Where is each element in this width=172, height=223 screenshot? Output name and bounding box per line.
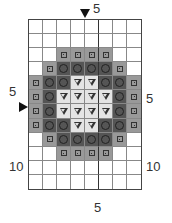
chart-cell <box>127 147 141 161</box>
triangle-down-icon <box>88 122 96 129</box>
chart-grid <box>28 19 142 190</box>
chart-cell <box>85 90 99 104</box>
chart-cell <box>85 34 99 48</box>
chart-cell <box>113 161 127 175</box>
chart-cell <box>57 175 71 189</box>
triangle-down-icon <box>74 122 82 129</box>
chart-cell <box>71 62 85 76</box>
chart-cell <box>71 90 85 104</box>
chart-cell <box>113 76 127 90</box>
bottom-column-label: 5 <box>94 201 101 214</box>
triangle-down-icon <box>74 108 82 115</box>
chart-cell <box>43 104 57 118</box>
chart-cell <box>127 175 141 189</box>
chart-cell <box>57 147 71 161</box>
chart-cell <box>99 20 113 34</box>
chart-cell <box>57 34 71 48</box>
circle-icon <box>101 78 110 87</box>
circle-icon <box>101 64 110 73</box>
square-dot-icon <box>47 66 53 72</box>
chart-cell <box>99 104 113 118</box>
chart-cell <box>71 104 85 118</box>
circle-icon <box>45 78 54 87</box>
chart-cell <box>43 20 57 34</box>
chart-cell <box>29 48 43 62</box>
chart-cell <box>127 119 141 133</box>
chart-cell <box>127 104 141 118</box>
square-dot-icon <box>33 108 39 114</box>
square-dot-icon <box>131 108 137 114</box>
chart-cell <box>99 90 113 104</box>
square-dot-icon <box>117 66 123 72</box>
chart-cell <box>99 119 113 133</box>
circle-icon <box>101 121 110 130</box>
triangle-down-icon <box>88 108 96 115</box>
chart-cell <box>71 34 85 48</box>
chart-cell <box>43 161 57 175</box>
square-dot-icon <box>131 80 137 86</box>
chart-cell <box>57 20 71 34</box>
circle-icon <box>115 78 124 87</box>
chart-cell <box>71 48 85 62</box>
chart-cell <box>57 119 71 133</box>
triangle-down-icon <box>60 108 68 115</box>
chart-cell <box>29 147 43 161</box>
square-dot-icon <box>89 52 95 58</box>
chart-cell <box>57 133 71 147</box>
square-dot-icon <box>131 122 137 128</box>
chart-cell <box>43 48 57 62</box>
square-dot-icon <box>117 136 123 142</box>
chart-cell <box>43 34 57 48</box>
chart-cell <box>85 161 99 175</box>
right-row-label-10: 10 <box>146 160 160 173</box>
circle-icon <box>45 92 54 101</box>
chart-cell <box>57 90 71 104</box>
chart-cell <box>71 147 85 161</box>
chart-cell <box>29 34 43 48</box>
chart-cell <box>71 133 85 147</box>
square-dot-icon <box>61 52 67 58</box>
column-marker-arrow-icon <box>80 9 90 18</box>
chart-cell <box>113 48 127 62</box>
chart-cell <box>29 175 43 189</box>
chart-cell <box>127 62 141 76</box>
chart-cell <box>85 133 99 147</box>
chart-cell <box>71 76 85 90</box>
chart-cell <box>85 48 99 62</box>
circle-icon <box>115 107 124 116</box>
left-row-label-10: 10 <box>9 160 23 173</box>
triangle-down-icon <box>102 108 110 115</box>
chart-cell <box>57 62 71 76</box>
chart-cell <box>113 90 127 104</box>
triangle-down-icon <box>102 93 110 100</box>
square-dot-icon <box>103 52 109 58</box>
chart-cell <box>71 161 85 175</box>
chart-cell <box>29 161 43 175</box>
right-row-label-5: 5 <box>146 92 153 105</box>
triangle-down-icon <box>74 93 82 100</box>
square-dot-icon <box>131 94 137 100</box>
chart-cell <box>113 34 127 48</box>
square-dot-icon <box>103 150 109 156</box>
chart-cell <box>99 62 113 76</box>
square-dot-icon <box>61 150 67 156</box>
circle-icon <box>115 92 124 101</box>
triangle-down-icon <box>88 93 96 100</box>
circle-icon <box>115 121 124 130</box>
chart-cell <box>29 76 43 90</box>
chart-cell <box>57 161 71 175</box>
chart-cell <box>71 175 85 189</box>
circle-icon <box>45 107 54 116</box>
chart-cell <box>113 104 127 118</box>
chart-cell <box>57 48 71 62</box>
square-dot-icon <box>89 150 95 156</box>
chart-cell <box>43 62 57 76</box>
chart-cell <box>127 76 141 90</box>
chart-cell <box>85 119 99 133</box>
circle-icon <box>73 135 82 144</box>
chart-cell <box>71 119 85 133</box>
circle-icon <box>59 78 68 87</box>
square-dot-icon <box>75 52 81 58</box>
chart-cell <box>43 147 57 161</box>
chart-cell <box>127 161 141 175</box>
